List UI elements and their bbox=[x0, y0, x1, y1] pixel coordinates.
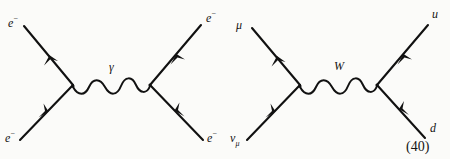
label-electron-bottom-left: e− bbox=[5, 131, 15, 144]
leg-bottom-right bbox=[150, 85, 203, 140]
vertex-left bbox=[71, 84, 74, 87]
leg-top-right bbox=[150, 25, 201, 85]
leg2-top-right bbox=[377, 25, 428, 85]
label-down-quark-bottom-right: d bbox=[430, 122, 436, 134]
vertex2-left bbox=[298, 84, 301, 87]
label-w-propagator: W bbox=[334, 60, 344, 72]
arrow-head2-bottom-right bbox=[399, 101, 409, 115]
label-electron-top-left: e− bbox=[8, 16, 18, 29]
label-muon-neutrino-bottom-left: νμ bbox=[230, 132, 240, 147]
label-electron-bottom-right: e− bbox=[207, 131, 217, 144]
label-base: d bbox=[430, 121, 436, 135]
feynman-diagram-canvas bbox=[0, 0, 450, 159]
leg2-bottom-right bbox=[377, 85, 425, 138]
label-base: u bbox=[432, 7, 438, 21]
feynman-diagram-figure: e− e− e− e− γ μ νμ u d W (40) bbox=[0, 0, 450, 159]
label-electron-top-right: e− bbox=[206, 11, 216, 24]
leg-bottom-left bbox=[20, 85, 73, 140]
diagram-moller-scattering bbox=[20, 25, 203, 140]
label-up-quark-top-right: u bbox=[432, 8, 438, 20]
label-photon-propagator: γ bbox=[109, 61, 114, 73]
label-superscript: − bbox=[211, 9, 216, 18]
leg-top-left bbox=[24, 26, 73, 85]
leg2-top-left bbox=[252, 28, 300, 85]
label-superscript: − bbox=[13, 14, 18, 23]
leg2-bottom-left bbox=[247, 85, 300, 140]
photon-propagator bbox=[73, 78, 150, 93]
label-muon-top-left: μ bbox=[236, 19, 242, 31]
w-propagator bbox=[300, 78, 377, 93]
equation-number: (40) bbox=[406, 140, 429, 154]
label-superscript: − bbox=[10, 129, 15, 138]
vertex2-right bbox=[375, 83, 378, 86]
label-subscript: μ bbox=[235, 139, 239, 148]
label-superscript: − bbox=[212, 129, 217, 138]
vertex-right bbox=[148, 83, 151, 86]
diagram-charged-current-weak bbox=[247, 25, 428, 140]
label-base: μ bbox=[236, 18, 242, 32]
